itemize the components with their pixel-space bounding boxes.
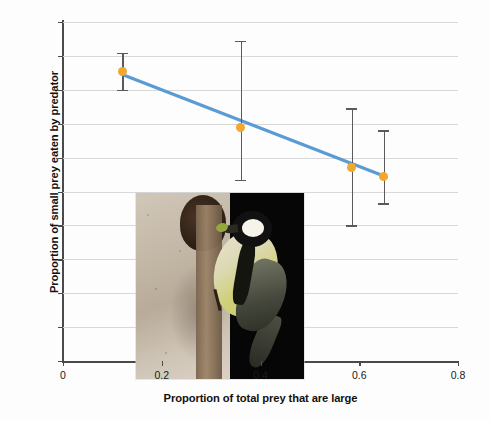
x-tick-label: 0.6 bbox=[339, 369, 379, 381]
error-bar-cap-upper bbox=[378, 130, 389, 131]
error-bar-cap-upper bbox=[117, 53, 128, 54]
data-point-marker[interactable] bbox=[236, 123, 245, 132]
error-bar-cap-upper bbox=[346, 108, 357, 109]
x-tick-mark bbox=[261, 361, 262, 366]
x-tick-label: 0.2 bbox=[142, 369, 182, 381]
plot-area: 00.10.20.30.40.50.60.70.80.91.0 00.20.40… bbox=[63, 22, 458, 361]
error-bar-cap-lower bbox=[346, 225, 357, 226]
x-tick-mark bbox=[162, 361, 163, 366]
x-tick-mark bbox=[63, 361, 64, 366]
x-tick-mark bbox=[359, 361, 360, 366]
x-axis-title: Proportion of total prey that are large bbox=[63, 392, 458, 404]
x-tick-label: 0 bbox=[43, 369, 83, 381]
data-point-marker[interactable] bbox=[118, 67, 127, 76]
x-tick-mark bbox=[458, 361, 459, 366]
x-tick-label: 0.4 bbox=[241, 369, 281, 381]
y-axis-title: Proportion of small prey eaten by predat… bbox=[48, 32, 60, 332]
error-bar bbox=[241, 41, 242, 180]
x-tick-label: 0.8 bbox=[438, 369, 478, 381]
chart-figure: Proportion of small prey eaten by predat… bbox=[0, 0, 490, 421]
error-bar-cap-lower bbox=[235, 180, 246, 181]
error-bar-cap-upper bbox=[235, 41, 246, 42]
error-bar-cap-lower bbox=[117, 90, 128, 91]
error-bar bbox=[384, 130, 385, 203]
error-bar-cap-lower bbox=[378, 203, 389, 204]
